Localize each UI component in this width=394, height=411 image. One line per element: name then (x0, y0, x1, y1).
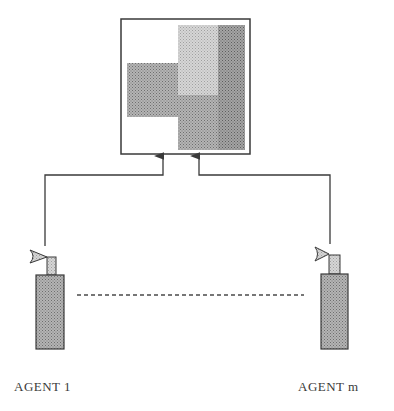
agent-neck (47, 257, 56, 275)
agent-neck (329, 255, 340, 274)
camera-lens-icon (30, 250, 47, 263)
shared-map (121, 19, 250, 154)
agent-body (36, 275, 64, 349)
map-region-upper-light-block (178, 25, 218, 95)
agent-1-label: AGENT 1 (14, 379, 71, 395)
map-region-right-column (218, 25, 245, 150)
agent-m (315, 247, 348, 349)
agent-body (321, 274, 348, 349)
agent-1 (30, 250, 64, 349)
map-region-lower-right-block (178, 95, 218, 150)
wire-agent-1-to-map (45, 156, 163, 246)
camera-lens-icon (315, 247, 329, 261)
agent-m-label: AGENT m (298, 379, 359, 395)
diagram-canvas (0, 0, 394, 411)
map-region-left-block (127, 63, 179, 117)
wire-agent-m-to-map (199, 156, 330, 244)
